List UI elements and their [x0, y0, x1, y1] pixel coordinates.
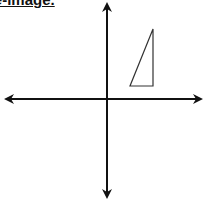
pre-image-triangle — [130, 29, 153, 86]
coordinate-plane — [0, 0, 205, 201]
